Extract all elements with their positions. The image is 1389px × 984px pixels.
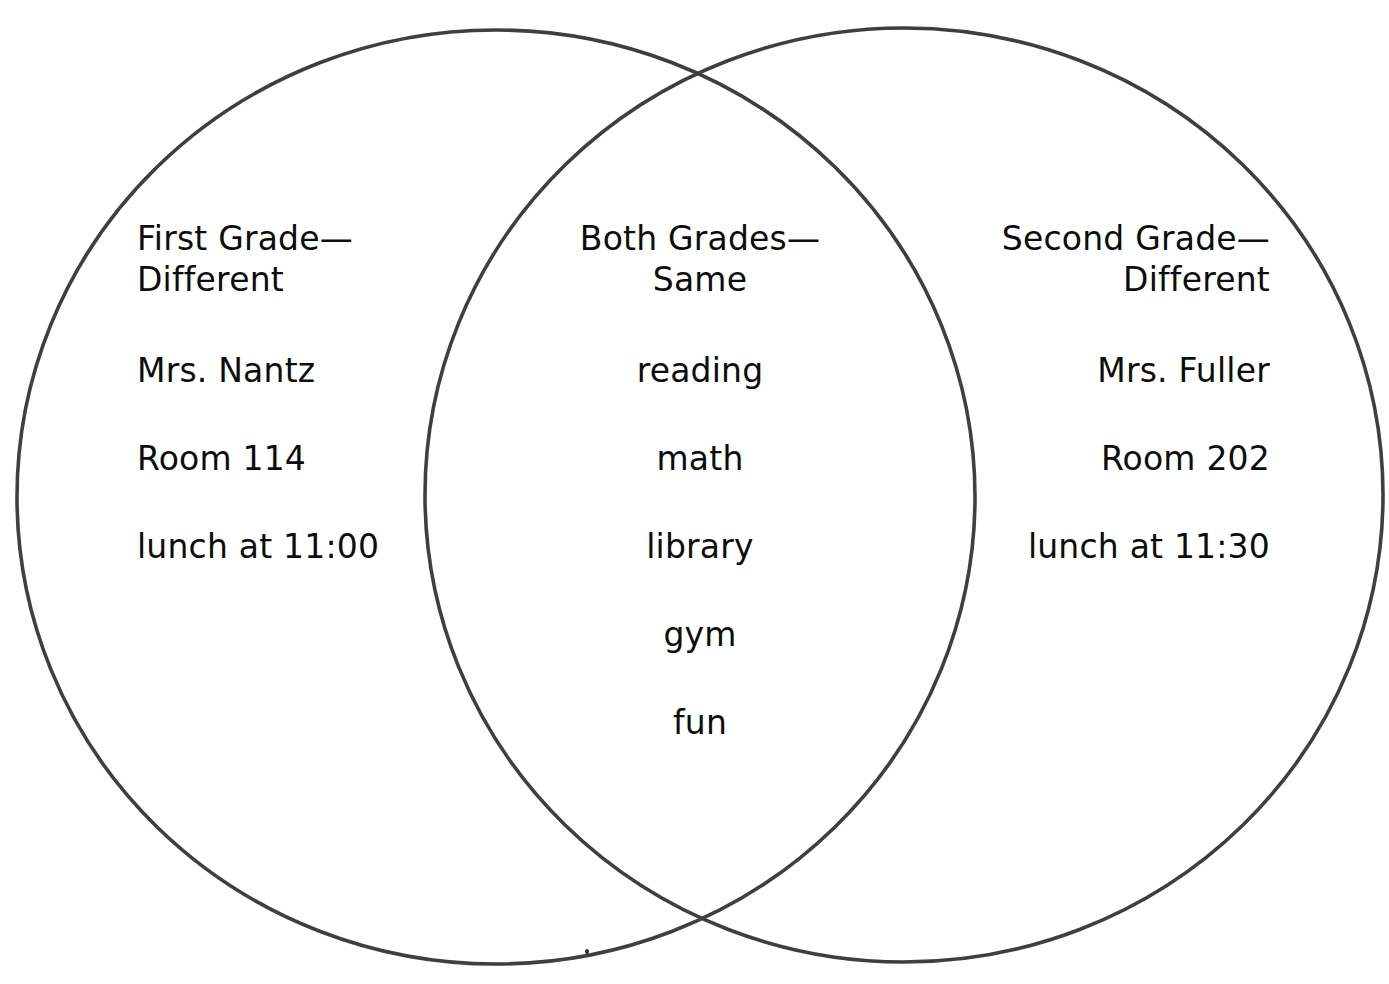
right-region-items: Mrs. Fuller Room 202 lunch at 11:30 (970, 350, 1270, 614)
region-left-only: First Grade— Different Mrs. Nantz Room 1… (137, 218, 437, 614)
list-item: Room 114 (137, 438, 437, 479)
left-region-items: Mrs. Nantz Room 114 lunch at 11:00 (137, 350, 437, 614)
center-region-items: reading math library gym fun (550, 350, 850, 790)
list-item: Mrs. Nantz (137, 350, 437, 391)
list-item: gym (550, 614, 850, 655)
list-item: library (550, 526, 850, 567)
list-item: Room 202 (970, 438, 1270, 479)
center-region-title: Both Grades— Same (550, 218, 850, 300)
list-item: math (550, 438, 850, 479)
region-right-only: Second Grade— Different Mrs. Fuller Room… (970, 218, 1270, 614)
list-item: reading (550, 350, 850, 391)
left-region-title: First Grade— Different (137, 218, 437, 300)
list-item: fun (550, 702, 850, 743)
venn-diagram-page: First Grade— Different Mrs. Nantz Room 1… (0, 0, 1389, 984)
right-region-title: Second Grade— Different (970, 218, 1270, 300)
list-item: Mrs. Fuller (970, 350, 1270, 391)
list-item: lunch at 11:30 (970, 526, 1270, 567)
list-item: lunch at 11:00 (137, 526, 437, 567)
scan-speck (585, 949, 589, 954)
region-intersection: Both Grades— Same reading math library g… (550, 218, 850, 790)
